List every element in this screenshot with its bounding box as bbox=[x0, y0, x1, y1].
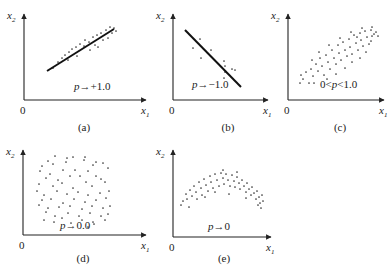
data-point bbox=[308, 82, 310, 84]
data-point bbox=[223, 60, 225, 62]
data-point bbox=[67, 212, 69, 214]
data-point bbox=[185, 193, 187, 195]
data-point bbox=[189, 189, 191, 191]
data-point bbox=[344, 67, 346, 69]
data-point bbox=[262, 200, 264, 202]
data-point bbox=[102, 207, 104, 209]
panel-d: x2x10p→0.0(d) bbox=[5, 145, 149, 265]
data-point bbox=[300, 74, 302, 76]
data-point bbox=[349, 46, 351, 48]
data-point bbox=[337, 44, 339, 46]
data-point bbox=[246, 182, 248, 184]
data-point bbox=[36, 190, 38, 192]
data-point bbox=[200, 57, 202, 59]
data-point bbox=[69, 175, 71, 177]
data-point bbox=[99, 192, 101, 194]
data-point bbox=[239, 188, 241, 190]
data-point bbox=[351, 53, 353, 55]
data-point bbox=[231, 174, 233, 176]
data-point bbox=[234, 69, 236, 71]
data-point bbox=[311, 59, 313, 61]
data-point bbox=[38, 204, 40, 206]
data-point bbox=[47, 160, 49, 162]
data-point bbox=[49, 173, 51, 175]
data-point bbox=[102, 162, 104, 164]
correlation-scatter-figure: x2x10p→+1.0(a)x2x10p→−1.0(b)x2x100<p<1.0… bbox=[0, 0, 391, 274]
data-point bbox=[350, 31, 352, 33]
data-point bbox=[302, 78, 304, 80]
data-point bbox=[95, 199, 97, 201]
data-point bbox=[84, 201, 86, 203]
data-point bbox=[96, 34, 98, 36]
data-point bbox=[91, 185, 93, 187]
data-point bbox=[107, 213, 109, 215]
data-point bbox=[196, 198, 198, 200]
data-point bbox=[351, 61, 353, 63]
origin-label: 0 bbox=[284, 104, 290, 116]
data-point bbox=[328, 44, 330, 46]
data-point bbox=[321, 65, 323, 67]
data-point bbox=[100, 178, 102, 180]
panel-caption: (a) bbox=[78, 121, 91, 134]
x-axis-label: x1 bbox=[140, 104, 149, 119]
data-point bbox=[104, 181, 106, 183]
data-point bbox=[370, 29, 372, 31]
trend-line bbox=[47, 29, 114, 71]
data-point bbox=[312, 75, 314, 77]
data-point bbox=[225, 173, 227, 175]
data-point bbox=[357, 49, 359, 51]
data-point bbox=[85, 181, 87, 183]
data-point bbox=[371, 35, 373, 37]
data-point bbox=[91, 205, 93, 207]
correlation-annotation: p→0 bbox=[207, 220, 231, 232]
panels-group: x2x10p→+1.0(a)x2x10p→−1.0(b)x2x100<p<1.0… bbox=[5, 9, 387, 265]
data-point bbox=[43, 194, 45, 196]
y-axis-label: x2 bbox=[6, 9, 16, 24]
data-point bbox=[340, 59, 342, 61]
correlation-annotation: p→0.0 bbox=[59, 219, 91, 231]
data-point bbox=[241, 179, 243, 181]
data-point bbox=[323, 74, 325, 76]
data-point bbox=[100, 215, 102, 217]
data-point bbox=[255, 198, 257, 200]
data-point bbox=[76, 55, 78, 57]
data-point bbox=[66, 193, 68, 195]
data-point bbox=[245, 191, 247, 193]
data-point bbox=[87, 170, 89, 172]
data-point bbox=[359, 32, 361, 34]
data-point bbox=[199, 38, 201, 40]
data-point bbox=[210, 181, 212, 183]
data-point bbox=[88, 41, 90, 43]
data-point bbox=[331, 49, 333, 51]
data-point bbox=[102, 39, 104, 41]
x-axis-label: x1 bbox=[378, 104, 387, 119]
data-point bbox=[251, 186, 253, 188]
data-point bbox=[238, 182, 240, 184]
panel-caption: (e) bbox=[218, 252, 231, 265]
x-axis-label: x1 bbox=[262, 104, 271, 119]
data-point bbox=[45, 177, 47, 179]
data-point bbox=[339, 37, 341, 39]
data-point bbox=[105, 197, 107, 199]
y-axis-label: x2 bbox=[5, 145, 15, 160]
data-point bbox=[92, 36, 94, 38]
data-point bbox=[104, 219, 106, 221]
data-point bbox=[100, 32, 102, 34]
data-point bbox=[335, 63, 337, 65]
data-point bbox=[188, 206, 190, 208]
data-point bbox=[78, 215, 80, 217]
data-point bbox=[75, 46, 77, 48]
data-point bbox=[69, 205, 71, 207]
data-point bbox=[362, 45, 364, 47]
data-point bbox=[315, 63, 317, 65]
data-point bbox=[210, 49, 212, 51]
data-point bbox=[353, 34, 355, 36]
data-point bbox=[243, 185, 245, 187]
data-point bbox=[95, 175, 97, 177]
data-point bbox=[41, 199, 43, 201]
data-point bbox=[64, 54, 66, 56]
data-point bbox=[97, 46, 99, 48]
data-point bbox=[71, 48, 73, 50]
data-point bbox=[47, 207, 49, 209]
data-point bbox=[89, 49, 91, 51]
